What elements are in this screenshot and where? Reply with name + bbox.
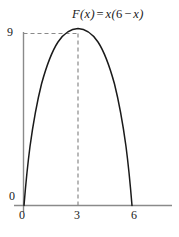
equation-rhs-close: ) — [139, 7, 144, 21]
equation-rhs-six: 6 — [116, 7, 123, 21]
equation-lhs: F(x) — [72, 7, 95, 21]
equation-label: F(x)=x(6−x) — [72, 8, 144, 21]
equation-rhs-minus: − — [123, 7, 133, 21]
y-axis-tick-label-9: 9 — [7, 26, 13, 38]
equation-equals: = — [95, 7, 105, 21]
x-axis-tick-label-0: 0 — [19, 209, 25, 221]
y-axis-tick-label-0: 0 — [9, 190, 15, 202]
equation-rhs-open: x( — [106, 7, 117, 21]
chart-figure: F(x)=x(6−x) 9 0 0 3 6 — [0, 0, 179, 237]
x-axis-tick-label-6: 6 — [131, 209, 137, 221]
x-axis-tick-label-3: 3 — [74, 209, 80, 221]
parabola-plot — [0, 0, 179, 237]
